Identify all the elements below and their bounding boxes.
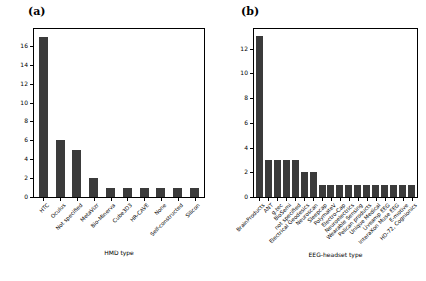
panel-a-x-tick-labels: HTCOculusNot specifiedMetaVizrBio-Minerv…	[0, 0, 213, 281]
x-tick-mark	[277, 198, 278, 201]
panel-b-x-tick-labels: BrainProductsANTg.tecBioSeminot specifie…	[213, 0, 426, 281]
x-tick-label: BrainProducts	[235, 202, 266, 233]
panel-a-x-axis-title: HMD type	[33, 249, 205, 256]
x-tick-mark	[349, 198, 350, 201]
x-tick-mark	[385, 198, 386, 201]
panel-b-x-axis-title: EEG-headset type	[253, 251, 418, 258]
x-tick-mark	[161, 198, 162, 201]
x-tick-mark	[195, 198, 196, 201]
x-tick-mark	[376, 198, 377, 201]
figure-two-panel-bar-charts: (a) 0246810121416 HTCOculusNot specified…	[0, 0, 426, 281]
x-tick-mark	[295, 198, 296, 201]
x-tick-mark	[286, 198, 287, 201]
x-tick-mark	[259, 198, 260, 201]
x-tick-mark	[304, 198, 305, 201]
x-tick-label: None	[153, 202, 167, 216]
x-tick-mark	[322, 198, 323, 201]
x-tick-mark	[144, 198, 145, 201]
x-tick-mark	[268, 198, 269, 201]
x-tick-mark	[412, 198, 413, 201]
panel-b: (b) 024681012 BrainProductsANTg.tecBioSe…	[213, 0, 426, 281]
x-tick-mark	[60, 198, 61, 201]
x-tick-mark	[340, 198, 341, 201]
x-tick-mark	[77, 198, 78, 201]
x-tick-mark	[127, 198, 128, 201]
x-tick-mark	[358, 198, 359, 201]
x-tick-mark	[111, 198, 112, 201]
x-tick-mark	[43, 198, 44, 201]
x-tick-mark	[313, 198, 314, 201]
x-tick-mark	[367, 198, 368, 201]
x-tick-label: Self-constructed	[149, 202, 184, 237]
panel-a: (a) 0246810121416 HTCOculusNot specified…	[0, 0, 213, 281]
x-tick-mark	[394, 198, 395, 201]
x-tick-mark	[178, 198, 179, 201]
x-tick-label: Silicon	[184, 202, 201, 219]
x-tick-mark	[403, 198, 404, 201]
x-tick-mark	[94, 198, 95, 201]
x-tick-mark	[331, 198, 332, 201]
x-tick-label: HTC	[38, 202, 50, 214]
